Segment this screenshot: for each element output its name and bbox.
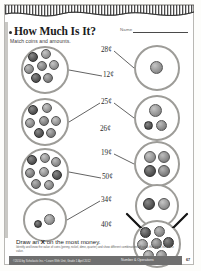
footer-credit: ©2010 by Scholastic Inc. • Learn With Un…	[13, 259, 91, 263]
worksheet-page: How Much Is It? Name Match coins and amo…	[0, 0, 201, 271]
coin-penny	[140, 227, 151, 238]
title-bullet-icon	[9, 31, 12, 34]
matching-work-area: 28¢12¢25¢26¢19¢50¢34¢40¢	[5, 44, 194, 228]
draw-x-instruction-post: on the most money.	[45, 238, 101, 245]
decorative-top-border	[5, 5, 194, 22]
footer-strand: Number & Operations	[121, 258, 154, 262]
x-stroke	[127, 214, 187, 228]
draw-x-instruction-pre: Draw an	[16, 238, 41, 245]
drawn-x-mark	[5, 44, 194, 228]
name-input-rule[interactable]	[133, 32, 188, 33]
page-number: 67	[186, 258, 190, 262]
lesson-objective: Identify and know the value of coins (pe…	[16, 246, 176, 253]
draw-x-instruction: Draw an X on the most money.	[16, 238, 101, 245]
name-label: Name	[120, 27, 133, 32]
x-stroke	[127, 214, 187, 228]
page-title: How Much Is It?	[14, 25, 96, 37]
